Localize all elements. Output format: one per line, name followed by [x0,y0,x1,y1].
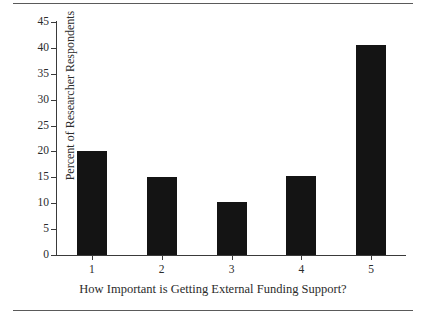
x-tick-label: 2 [142,263,182,275]
y-tick-mark [51,203,56,204]
y-tick-label: 20 [38,142,50,159]
y-tick: 25 [56,126,57,127]
bar [286,176,316,255]
bar [77,151,107,255]
figure-container: Percent of Researcher Respondents 051015… [0,0,426,317]
y-tick-label: 0 [43,246,49,263]
y-tick-mark [51,22,56,23]
y-tick-label: 15 [38,168,50,185]
bottom-divider-rule [13,310,413,311]
x-tick-label: 3 [212,263,252,275]
y-tick-mark [51,100,56,101]
y-tick: 30 [56,100,57,101]
y-tick-mark [51,151,56,152]
y-tick: 40 [56,48,57,49]
x-tick-label: 1 [72,263,112,275]
y-tick: 15 [56,177,57,178]
x-axis-title: How Important is Getting External Fundin… [0,282,426,297]
y-tick: 5 [56,229,57,230]
y-tick-label: 40 [38,39,50,56]
y-tick: 0 [56,255,57,256]
x-tick-mark [162,255,163,260]
y-tick-label: 45 [38,13,50,30]
y-tick-mark [51,74,56,75]
bar [217,202,247,255]
y-tick-label: 5 [43,220,49,237]
y-tick-label: 30 [38,91,50,108]
y-tick-mark [51,229,56,230]
y-tick-mark [51,177,56,178]
y-tick-label: 25 [38,117,50,134]
x-tick-mark [92,255,93,260]
x-tick-label: 5 [351,263,391,275]
bar [147,177,177,255]
y-tick: 20 [56,151,57,152]
x-tick-mark [371,255,372,260]
x-tick-label: 4 [281,263,321,275]
y-tick-mark [51,126,56,127]
bar [356,45,386,255]
y-tick-label: 35 [38,65,50,82]
x-tick-mark [232,255,233,260]
y-tick: 45 [56,22,57,23]
y-tick: 35 [56,74,57,75]
y-tick: 10 [56,203,57,204]
plot-area: Percent of Researcher Respondents 051015… [57,22,406,255]
y-tick-label: 10 [38,194,50,211]
y-tick-mark [51,255,56,256]
y-tick-mark [51,48,56,49]
y-axis-title: Percent of Researcher Respondents [63,0,78,221]
x-tick-mark [301,255,302,260]
